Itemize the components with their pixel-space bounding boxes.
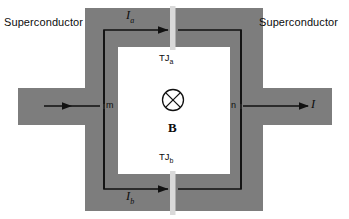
node-label-m: m — [106, 101, 114, 110]
junction-label-b-symbol: TJ — [159, 151, 170, 162]
current-label-top-subscript: a — [130, 16, 134, 25]
junction-label-b-subscript: b — [170, 157, 174, 164]
current-label-bottom: Ib — [126, 190, 134, 206]
node-label-n: n — [231, 101, 236, 110]
superconductor-label-left: Superconductor — [4, 17, 83, 28]
junction-label-b: TJb — [159, 152, 173, 164]
figure-canvas: Superconductor Superconductor Ia Ib I TJ… — [0, 0, 349, 219]
junction-label-a: TJa — [159, 53, 173, 65]
squid-diagram-svg — [0, 0, 349, 219]
current-label-top: Ia — [126, 9, 134, 25]
current-label-total: I — [311, 98, 315, 111]
tunnel-junction-a-bar — [170, 6, 176, 50]
magnetic-field-label: B — [168, 121, 177, 134]
junction-label-a-symbol: TJ — [159, 52, 170, 63]
current-label-bottom-subscript: b — [130, 197, 134, 206]
tunnel-junction-b-bar — [170, 171, 176, 215]
superconductor-label-right: Superconductor — [259, 17, 338, 28]
junction-label-a-subscript: a — [170, 58, 174, 65]
